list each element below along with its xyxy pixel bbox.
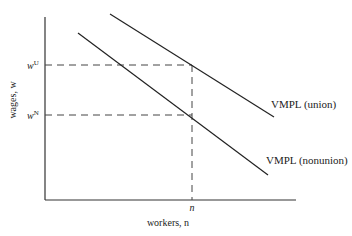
- wage-union-tick: wU: [27, 59, 39, 71]
- wage-nonunion-tick: wN: [27, 109, 39, 121]
- labor-demand-diagram: VMPL (union) VMPL (nonunion) wU wN n wor…: [0, 0, 352, 236]
- workers-tick: n: [190, 202, 195, 213]
- vmpl-nonunion-curve: [78, 33, 268, 175]
- x-axis-title: workers, n: [147, 217, 189, 228]
- y-axis-title: wages, w: [7, 81, 18, 119]
- vmpl-nonunion-label: VMPL (nonunion): [266, 154, 348, 167]
- vmpl-union-label: VMPL (union): [271, 98, 337, 111]
